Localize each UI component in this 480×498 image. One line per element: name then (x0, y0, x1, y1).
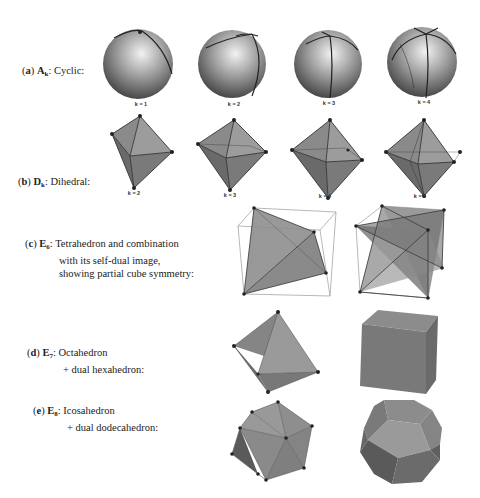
k-label-a1: k = 1 (121, 101, 161, 107)
bipyramid-figure-k5 (384, 118, 464, 198)
label-row-e: (e) E8: Icosahedron + dual dodecahedron: (33, 404, 158, 434)
sphere-figure-k1 (102, 24, 182, 104)
label-row-a: (a) Ak: Cyclic: (22, 64, 84, 81)
stella-octangula-in-cube-figure (356, 206, 446, 298)
sphere-figure-k2 (196, 24, 276, 104)
cube-figure (360, 310, 440, 394)
sphere-figure-k3 (292, 24, 372, 104)
bipyramid-figure-k2 (100, 112, 180, 192)
octahedron-figure (234, 310, 324, 394)
label-row-c: (c) E6: Tetrahedron and combination with… (25, 237, 194, 280)
k-label-b3: k = 4 (305, 193, 345, 199)
bipyramid-figure-k4 (286, 118, 366, 198)
k-label-b2: k = 3 (210, 192, 250, 198)
label-row-b: (b) Dk: Dihedral: (18, 175, 90, 192)
label-row-d: (d) E7: Octahedron + dual hexahedron: (27, 346, 144, 376)
icosahedron-figure (232, 398, 314, 482)
sphere-figure-k4 (386, 20, 466, 100)
dodecahedron-figure (360, 400, 446, 484)
k-label-b1: k = 2 (114, 190, 154, 196)
bipyramid-figure-k3 (194, 118, 274, 198)
k-label-b4: k = 5 (400, 193, 440, 199)
k-label-a2: k = 2 (214, 101, 254, 107)
k-label-a4: k = 4 (404, 99, 444, 105)
k-label-a3: k = 3 (309, 100, 349, 106)
tetrahedron-in-cube-figure (236, 208, 336, 298)
